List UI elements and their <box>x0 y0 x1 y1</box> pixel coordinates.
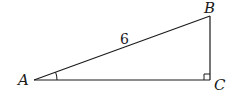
right-angle-marker-icon <box>204 74 210 80</box>
side-ab-length-label: 6 <box>120 31 129 47</box>
vertex-label-b: B <box>203 0 215 17</box>
vertex-label-c: C <box>214 76 226 94</box>
vertex-label-a: A <box>16 71 29 89</box>
angle-a-arc-icon <box>56 72 57 80</box>
side-ab-hypotenuse <box>34 16 210 80</box>
triangle-diagram: A B C 6 <box>0 0 238 96</box>
